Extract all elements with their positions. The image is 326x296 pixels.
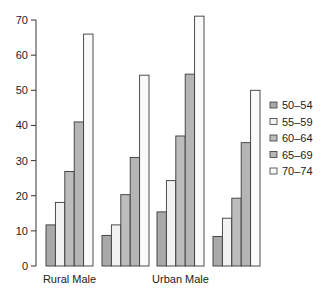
y-tick-label: 60 (16, 49, 28, 61)
legend-swatch-icon (270, 102, 277, 108)
bar (166, 181, 175, 266)
y-tick-label: 10 (16, 225, 28, 237)
bar (111, 225, 120, 266)
grouped-bar-chart: 010203040506070 Rural MaleUrban Male 50–… (0, 0, 326, 296)
x-category-label: Urban Male (152, 273, 209, 285)
legend-item: 65–69 (270, 149, 313, 161)
legend-label: 60–64 (282, 132, 313, 144)
y-tick-label: 30 (16, 155, 28, 167)
legend-item: 60–64 (270, 132, 313, 144)
legend-item: 70–74 (270, 165, 313, 177)
y-tick-label: 20 (16, 190, 28, 202)
y-tick-label: 70 (16, 14, 28, 26)
bar-group (213, 90, 260, 266)
legend-label: 55–59 (282, 116, 313, 128)
bar (74, 122, 83, 266)
bar (46, 225, 55, 266)
bar (84, 34, 93, 266)
bar-group (102, 75, 149, 266)
x-category-label: Rural Male (43, 273, 96, 285)
bar (195, 16, 204, 266)
bar (241, 143, 250, 266)
bar (232, 198, 241, 266)
bar (102, 235, 111, 266)
bar (157, 212, 166, 266)
bar-group (157, 16, 204, 266)
bars (46, 16, 260, 266)
legend-swatch-icon (270, 119, 277, 125)
legend: 50–5455–5960–6465–6970–74 (270, 99, 313, 177)
bar (176, 136, 185, 266)
bar (185, 74, 194, 266)
x-axis-labels: Rural MaleUrban Male (43, 273, 209, 285)
legend-item: 55–59 (270, 116, 313, 128)
bar (65, 171, 74, 266)
legend-label: 50–54 (282, 99, 313, 111)
legend-swatch-icon (270, 168, 277, 174)
bar (55, 202, 64, 266)
legend-label: 70–74 (282, 165, 313, 177)
bar (121, 195, 130, 266)
y-tick-label: 40 (16, 119, 28, 131)
y-axis: 010203040506070 (16, 14, 36, 272)
legend-swatch-icon (270, 152, 277, 158)
bar (140, 75, 149, 266)
legend-item: 50–54 (270, 99, 313, 111)
bar-group (46, 34, 93, 266)
legend-label: 65–69 (282, 149, 313, 161)
y-tick-label: 0 (22, 260, 28, 272)
legend-swatch-icon (270, 135, 277, 141)
bar (213, 236, 222, 266)
bar (222, 218, 231, 266)
bar (251, 90, 260, 266)
bar (130, 157, 139, 266)
y-tick-label: 50 (16, 84, 28, 96)
